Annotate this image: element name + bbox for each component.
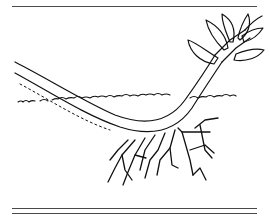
- bottom-rule-2: [12, 213, 257, 214]
- layering-illustration: [0, 0, 270, 219]
- bottom-rule-1: [12, 208, 257, 209]
- bent-stem: [15, 55, 222, 132]
- leafy-shoot: [188, 14, 264, 64]
